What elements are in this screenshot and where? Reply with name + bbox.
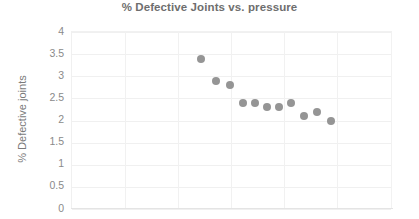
x-gridline: [125, 32, 126, 208]
x-gridline: [231, 32, 232, 208]
y-axis-tick-label: 1.5: [33, 136, 64, 147]
data-point[interactable]: [263, 103, 271, 111]
y-axis-title: % Defective joints: [16, 44, 28, 194]
data-point[interactable]: [313, 108, 321, 116]
y-axis-tick-label: 0: [33, 203, 64, 214]
chart-container: % Defective Joints vs. pressure % Defect…: [0, 0, 419, 219]
data-point[interactable]: [327, 117, 335, 125]
data-point[interactable]: [287, 99, 295, 107]
data-point[interactable]: [212, 77, 220, 85]
x-gridline: [337, 32, 338, 208]
data-point[interactable]: [197, 55, 205, 63]
data-point[interactable]: [239, 99, 247, 107]
y-axis-tick-label: 2.5: [33, 92, 64, 103]
y-axis-tick-label: 3.5: [33, 48, 64, 59]
y-axis-tick-label: 3: [33, 70, 64, 81]
plot-area: [71, 31, 392, 208]
y-axis-tick-label: 0.5: [33, 180, 64, 191]
x-gridline: [284, 32, 285, 208]
data-point[interactable]: [251, 99, 259, 107]
y-axis-tick-label: 4: [33, 26, 64, 37]
y-gridline: [72, 209, 391, 210]
data-point[interactable]: [275, 103, 283, 111]
x-gridline: [178, 32, 179, 208]
y-axis-tick-label: 2: [33, 114, 64, 125]
y-axis-tick-label: 1: [33, 158, 64, 169]
data-point[interactable]: [226, 81, 234, 89]
chart-title: % Defective Joints vs. pressure: [0, 1, 419, 13]
data-point[interactable]: [300, 112, 308, 120]
x-axis-line: [71, 208, 393, 209]
y-axis-tick-labels: 00.511.522.533.54: [33, 25, 64, 215]
